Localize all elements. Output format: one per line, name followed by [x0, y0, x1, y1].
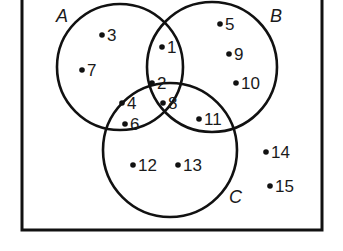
- element-11: 11: [196, 110, 221, 129]
- element-label: 11: [204, 110, 222, 129]
- venn-diagram: ABC 371591028461112131415: [0, 0, 343, 251]
- element-3: 3: [99, 26, 116, 45]
- element-dot: [99, 32, 105, 38]
- element-dot: [217, 21, 223, 27]
- element-dot: [160, 100, 166, 106]
- element-10: 10: [233, 74, 260, 93]
- element-14: 14: [263, 143, 290, 162]
- element-dot: [267, 183, 273, 189]
- element-dot: [149, 80, 155, 86]
- element-dot: [159, 44, 165, 50]
- element-label: 12: [138, 156, 157, 175]
- element-label: 1: [167, 38, 176, 57]
- element-7: 7: [79, 61, 96, 80]
- elements-group: 371591028461112131415: [79, 15, 294, 196]
- element-dot: [196, 116, 202, 122]
- set-c-label: C: [229, 187, 243, 207]
- element-label: 2: [157, 74, 166, 93]
- element-label: 15: [275, 177, 294, 196]
- element-label: 14: [271, 143, 290, 162]
- element-dot: [263, 149, 269, 155]
- set-b-label: B: [270, 6, 282, 26]
- element-15: 15: [267, 177, 294, 196]
- element-12: 12: [130, 156, 157, 175]
- element-dot: [119, 100, 125, 106]
- element-4: 4: [119, 94, 136, 113]
- element-label: 9: [234, 45, 243, 64]
- element-dot: [175, 162, 181, 168]
- element-label: 6: [130, 115, 139, 134]
- element-13: 13: [175, 156, 202, 175]
- element-label: 3: [107, 26, 116, 45]
- element-dot: [233, 80, 239, 86]
- element-dot: [79, 67, 85, 73]
- element-label: 4: [127, 94, 136, 113]
- element-dot: [130, 162, 136, 168]
- element-label: 8: [168, 94, 177, 113]
- element-label: 13: [183, 156, 202, 175]
- element-6: 6: [122, 115, 139, 134]
- element-dot: [226, 51, 232, 57]
- element-dot: [122, 121, 128, 127]
- element-label: 7: [87, 61, 96, 80]
- element-5: 5: [217, 15, 234, 34]
- element-label: 10: [241, 74, 260, 93]
- set-a-label: A: [55, 6, 68, 26]
- element-1: 1: [159, 38, 176, 57]
- element-label: 5: [225, 15, 234, 34]
- element-9: 9: [226, 45, 243, 64]
